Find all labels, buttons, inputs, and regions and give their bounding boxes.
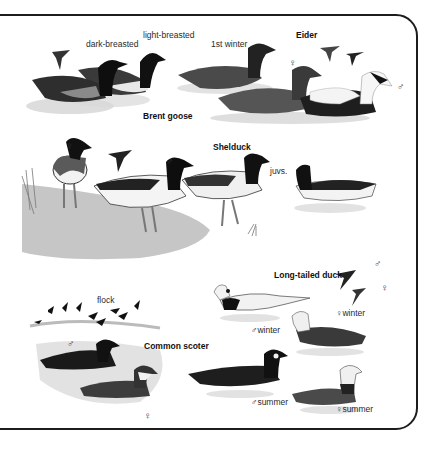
eider-1st-winter-label: 1st winter bbox=[211, 40, 247, 49]
brent-goose-title: Brent goose bbox=[143, 112, 193, 121]
bird-plate-illustration bbox=[0, 0, 439, 449]
eider-illustration bbox=[177, 43, 392, 124]
shelduck-juveniles-label: juvs. bbox=[270, 167, 287, 176]
eider-male-symbol: ♂ bbox=[397, 82, 405, 92]
shelduck-male-symbol: ♂ bbox=[166, 157, 174, 167]
shelduck-title: Shelduck bbox=[213, 143, 251, 152]
eider-female-symbol: ♀ bbox=[289, 58, 297, 68]
long-tailed-male-flight-symbol: ♂ bbox=[374, 259, 382, 269]
long-tailed-duck-illustration bbox=[188, 270, 366, 414]
long-tailed-duck-title: Long-tailed duck bbox=[274, 271, 342, 280]
common-scoter-illustration bbox=[30, 300, 163, 404]
shelduck-female-symbol: ♀ bbox=[66, 141, 74, 151]
long-tailed-female-winter-label: ♀winter bbox=[336, 309, 365, 318]
brent-goose-illustration bbox=[26, 50, 166, 114]
scoter-flock-label: flock bbox=[97, 296, 114, 305]
long-tailed-female-flight-symbol: ♀ bbox=[381, 283, 389, 293]
brent-dark-breasted-label: dark-breasted bbox=[86, 40, 138, 49]
long-tailed-male-summer-label: ♂summer bbox=[251, 398, 288, 407]
scoter-male-symbol: ♂ bbox=[67, 339, 75, 349]
shelduck-illustration bbox=[22, 138, 376, 259]
long-tailed-female-summer-label: ♀summer bbox=[336, 405, 373, 414]
scoter-female-symbol: ♀ bbox=[144, 411, 152, 421]
brent-light-breasted-label: light-breasted bbox=[143, 31, 195, 40]
common-scoter-title: Common scoter bbox=[144, 342, 209, 351]
eider-title: Eider bbox=[296, 31, 317, 40]
long-tailed-male-winter-label: ♂winter bbox=[251, 326, 280, 335]
